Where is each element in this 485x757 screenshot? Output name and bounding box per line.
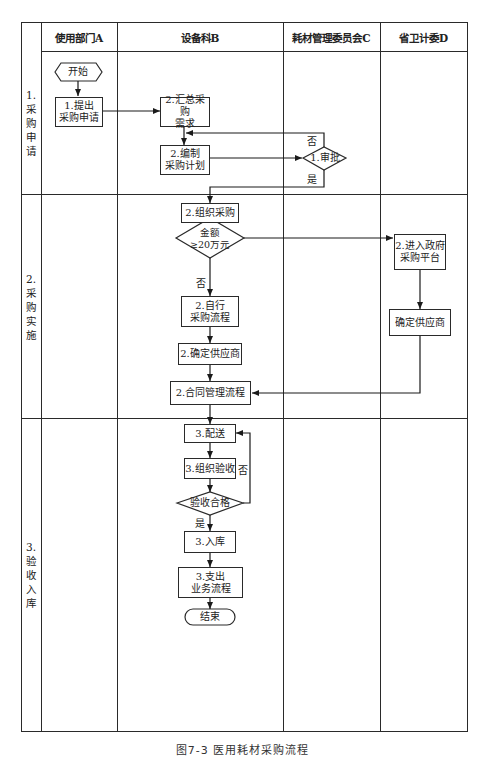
approval-node: 1.审批: [308, 151, 342, 165]
acceptance-yes-label: 是: [195, 515, 205, 530]
warehousing-node: 3.入库: [184, 531, 236, 553]
confirm-supplier-d-node: 确定供应商: [389, 309, 451, 336]
approval-no-label: 否: [307, 133, 317, 148]
delivery-node: 3.配送: [184, 424, 236, 443]
confirm-supplier-b-node: 2.确定供应商: [178, 343, 242, 365]
amount-check-node: 金额 ≥20万元: [186, 226, 234, 252]
acceptance-ok-node: 验收合格: [187, 496, 233, 510]
approval-yes-label: 是: [307, 171, 317, 186]
organize-acceptance-node: 3.组织验收: [184, 458, 236, 479]
self-purchase-node: 2.自行 采购流程: [181, 296, 239, 327]
payment-node: 3.支出 业务流程: [178, 567, 243, 598]
compile-plan-node: 2.编制 采购计划: [160, 145, 210, 175]
contract-mgmt-node: 2.合同管理流程: [170, 381, 251, 405]
summarize-demand-node: 2.汇总采购 需求: [160, 97, 210, 127]
organize-purchase-node: 2.组织采购: [181, 203, 239, 223]
amount-no-label: 否: [196, 275, 206, 290]
end-node: 结束: [186, 610, 234, 624]
acceptance-no-label: 否: [238, 462, 248, 477]
submit-request-node: 1.提出 采购申请: [55, 97, 103, 127]
start-node: 开始: [58, 64, 98, 80]
gov-platform-node: 2.进入政府 采购平台: [394, 234, 446, 270]
figure-caption: 图7-3 医用耗材采购流程: [0, 741, 485, 757]
